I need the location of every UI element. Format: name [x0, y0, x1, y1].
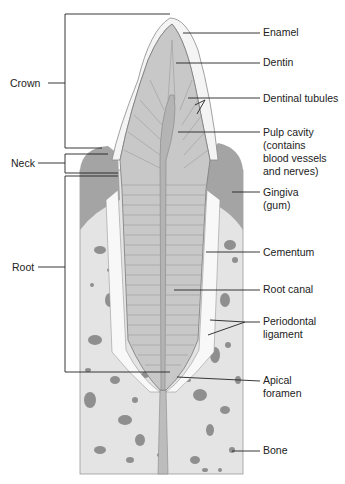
label-neck: Neck — [11, 157, 35, 170]
label-cementum: Cementum — [263, 246, 314, 259]
label-enamel: Enamel — [263, 26, 299, 39]
tooth-diagram: Crown Neck Root Enamel Dentin Dentinal t… — [0, 0, 345, 484]
label-root: Root — [12, 261, 34, 274]
label-apical-foramen: Apical foramen — [263, 374, 302, 400]
label-periodontal-ligament: Periodontal ligament — [263, 315, 316, 341]
label-crown: Crown — [10, 77, 40, 90]
label-pulp-cavity: Pulp cavity (contains blood vessels and … — [263, 126, 327, 178]
label-root-canal: Root canal — [263, 283, 313, 296]
label-gingiva: Gingiva (gum) — [263, 186, 299, 212]
label-bone: Bone — [263, 444, 288, 457]
tooth-illustration — [0, 0, 345, 484]
root-canal-extension — [158, 390, 168, 474]
label-dentinal-tubules: Dentinal tubules — [263, 92, 338, 105]
label-dentin: Dentin — [263, 56, 293, 69]
